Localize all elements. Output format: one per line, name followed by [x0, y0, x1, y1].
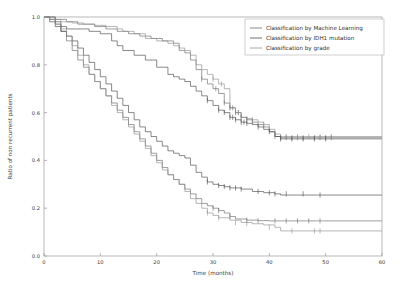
x-tick-label: 20 — [153, 259, 160, 265]
kaplan-meier-figure: 0102030405060 0.00.20.40.60.81.0 Time (m… — [0, 0, 402, 295]
x-tick-label: 10 — [97, 259, 104, 265]
y-axis-label: Ratio of non recurrent patients — [7, 93, 14, 179]
y-tick-label: 1.0 — [32, 14, 40, 20]
y-tick-label: 0.2 — [32, 205, 40, 211]
y-tick-label: 0.0 — [32, 253, 40, 259]
x-tick-label: 50 — [322, 259, 329, 265]
y-tick-label: 0.6 — [32, 110, 40, 116]
y-tick-label: 0.8 — [32, 62, 40, 68]
y-tick-label: 0.4 — [32, 157, 41, 163]
legend-label: Classification by IDH1 mutation — [266, 35, 355, 42]
x-tick-label: 40 — [266, 259, 273, 265]
legend-label: Classification by grade — [266, 45, 330, 52]
x-tick-label: 0 — [42, 259, 45, 265]
survival-plot-svg: 0102030405060 0.00.20.40.60.81.0 Time (m… — [0, 0, 402, 295]
chart-legend: Classification by Machine LearningClassi… — [245, 19, 384, 55]
legend-label: Classification by Machine Learning — [266, 25, 363, 32]
x-tick-label: 60 — [379, 259, 386, 265]
x-axis-label: Time (months) — [192, 270, 234, 276]
x-tick-label: 30 — [210, 259, 217, 265]
